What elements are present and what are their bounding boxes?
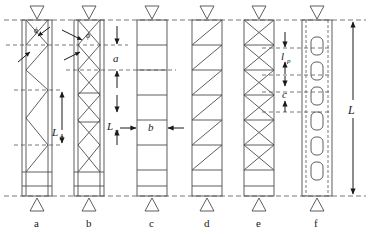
dim-Lp-mid-label: L xyxy=(106,120,113,132)
bottom-support-b xyxy=(82,198,96,211)
bottom-support-f xyxy=(310,198,324,211)
column-d-diag-3 xyxy=(192,70,222,95)
column-a-lacing xyxy=(26,20,48,172)
top-support-d xyxy=(200,6,214,19)
caption-a: a xyxy=(34,217,39,229)
dim-Lp-mid-sub: p xyxy=(114,127,119,135)
phi-a-leader-2 xyxy=(18,52,30,62)
column-d-diag-4 xyxy=(192,95,222,120)
slot-6 xyxy=(311,162,323,180)
bottom-support-e xyxy=(252,198,266,211)
phi-label-b: ϕ xyxy=(86,31,90,40)
bottom-support-c xyxy=(145,198,159,211)
column-a xyxy=(22,20,52,196)
top-support-c xyxy=(145,6,159,19)
slot-1 xyxy=(311,37,323,55)
phi-label-a: ϕ xyxy=(34,26,38,35)
column-f xyxy=(302,20,332,196)
dim-Lp-left-label: L xyxy=(51,126,58,138)
top-support-f xyxy=(310,6,324,19)
dim-a-label: a xyxy=(113,52,119,64)
caption-b: b xyxy=(86,217,92,229)
column-a-outline xyxy=(22,20,52,196)
column-f-outline xyxy=(302,20,332,196)
column-e xyxy=(244,20,274,196)
dimension-arrows xyxy=(18,22,353,194)
column-d xyxy=(192,20,222,196)
bottom-support-d xyxy=(200,198,214,211)
text-labels: ϕ ϕ a L p L p b l p c L a b c d e f xyxy=(34,26,355,229)
column-d-diag-5 xyxy=(192,120,222,145)
column-d-diag-2 xyxy=(192,45,222,70)
caption-f: f xyxy=(314,217,318,229)
column-f-inner-dashed xyxy=(306,20,328,196)
top-support-b xyxy=(82,6,96,19)
dim-c-label: c xyxy=(282,88,287,100)
column-d-diag-1 xyxy=(192,20,222,45)
top-support-e xyxy=(252,6,266,19)
column-d-diag-6 xyxy=(192,145,222,170)
bottom-support-a xyxy=(30,198,44,211)
caption-c: c xyxy=(149,217,154,229)
column-c xyxy=(137,20,167,196)
figure-canvas: ϕ ϕ a L p L p b l p c L a b c d e f xyxy=(0,0,379,234)
caption-e: e xyxy=(256,217,261,229)
dim-b-label: b xyxy=(148,121,154,133)
dim-Lp-left-sub: p xyxy=(59,133,64,141)
top-support-a xyxy=(30,6,44,19)
dim-lp-label: l xyxy=(281,50,284,62)
slot-3 xyxy=(311,87,323,105)
caption-d: d xyxy=(204,217,210,229)
column-b xyxy=(74,20,104,196)
column-f-slots xyxy=(311,37,323,180)
slot-4 xyxy=(311,112,323,130)
datum-lines xyxy=(4,20,366,196)
dim-L-label: L xyxy=(347,103,355,117)
phi-b-leader-1 xyxy=(62,30,82,40)
slot-2 xyxy=(311,62,323,80)
slot-5 xyxy=(311,137,323,155)
dim-lp-sub: p xyxy=(286,57,291,65)
built-up-columns-diagram: ϕ ϕ a L p L p b l p c L a b c d e f xyxy=(0,0,379,234)
